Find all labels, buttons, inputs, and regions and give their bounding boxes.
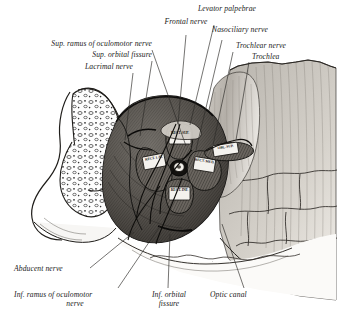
anatomical-figure: Frontal nerve Levator palpebrae Nasocili… — [0, 0, 338, 323]
label-sup-ramus-oculomotor-nerve: Sup. ramus of oculomotor nerve — [2, 39, 152, 48]
label-abducent-nerve: Abducent nerve — [14, 264, 134, 273]
label-nasociliary-nerve: Nasociliary nerve — [212, 25, 338, 34]
label-inf-orbital-fissure-line2: fissure — [138, 299, 200, 308]
label-levator-palpebrae: Levator palpebrae — [198, 4, 338, 13]
label-inf-orbital-fissure-line1: Inf. orbital — [138, 290, 200, 299]
label-inf-ramus-oculomotor-nerve-line1: Inf. ramus of oculomotor — [14, 290, 144, 299]
label-trochlea: Trochlea — [252, 52, 338, 61]
label-trochlear-nerve: Trochlear nerve — [236, 41, 338, 50]
muscle-label-rectus-superior: RECT. SUP. — [169, 131, 191, 135]
label-sup-orbital-fissure: Sup. orbital fissure — [2, 50, 152, 59]
label-inf-ramus-oculomotor-nerve-line2: nerve — [14, 299, 136, 308]
label-optic-canal: Optic canal — [210, 290, 300, 299]
muscle-label-rectus-inferior: RECT. INF. — [169, 188, 190, 192]
label-lacrimal-nerve: Lacrimal nerve — [2, 62, 133, 71]
